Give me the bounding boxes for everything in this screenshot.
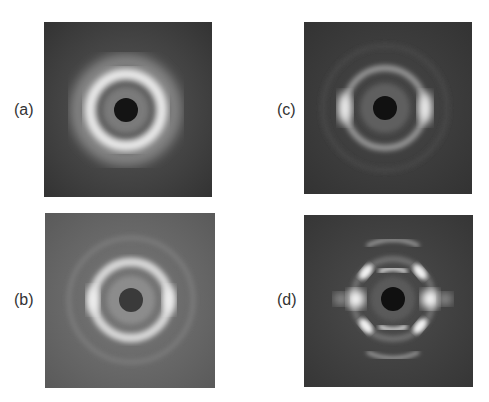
diffraction-pattern-a	[44, 22, 212, 197]
diffraction-pattern-b	[45, 213, 215, 388]
panel-a-label: (a)	[14, 101, 34, 119]
diffraction-pattern-d	[304, 215, 473, 387]
panel-c-label: (c)	[277, 101, 296, 119]
diffraction-pattern-c	[304, 22, 472, 194]
panel-b-label: (b)	[14, 291, 34, 309]
panel-d-label: (d)	[277, 291, 297, 309]
cut-off-header-text: · · ·	[425, 0, 450, 7]
